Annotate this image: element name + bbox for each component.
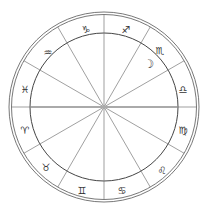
aquarius-icon: ♒ <box>44 47 53 58</box>
cancer-icon: ♋ <box>118 185 127 196</box>
house-cusp-line <box>24 61 104 107</box>
leo-icon: ♌ <box>158 165 167 176</box>
house-cusp-line <box>58 27 104 107</box>
libra-icon: ♎ <box>179 84 188 95</box>
capricorn-icon: ♑ <box>82 24 91 35</box>
natal-chart-wheel: ♈♉♊♋♌♍♎♏♐♑♒♓ ☽ <box>0 0 208 217</box>
house-cusp-line <box>24 107 104 153</box>
virgo-icon: ♍ <box>179 125 188 136</box>
planet-glyphs: ☽ <box>144 57 155 71</box>
sagittarius-icon: ♐ <box>122 24 131 35</box>
house-cusp-line <box>58 107 104 187</box>
taurus-icon: ♉ <box>42 162 51 173</box>
moon-icon: ☽ <box>144 57 155 71</box>
house-cusp-line <box>104 107 150 187</box>
gemini-icon: ♊ <box>78 185 87 196</box>
pisces-icon: ♓ <box>21 84 30 95</box>
aries-icon: ♈ <box>21 125 30 136</box>
house-cusp-line <box>104 107 184 153</box>
scorpio-icon: ♏ <box>156 45 165 56</box>
